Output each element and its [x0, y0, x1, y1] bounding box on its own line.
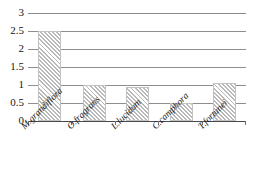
bar-chart: 3 2.5 2 1.5 1 0.5 0 M.grandiflora O.	[0, 0, 253, 189]
y-tick-label-2: 2	[19, 43, 25, 54]
x-axis-category-labels: M.grandiflora O.fragrans L.lucidum C.cam…	[0, 124, 253, 189]
y-tick-label-1: 1	[19, 79, 25, 90]
cropped-caption-sliver	[42, 185, 214, 188]
y-tick-label-3: 3	[19, 7, 25, 18]
y-tick-label-2-5: 2.5	[10, 25, 24, 36]
y-tick-label-0-5: 0.5	[10, 97, 24, 108]
y-tick-label-1-5: 1.5	[10, 61, 24, 72]
